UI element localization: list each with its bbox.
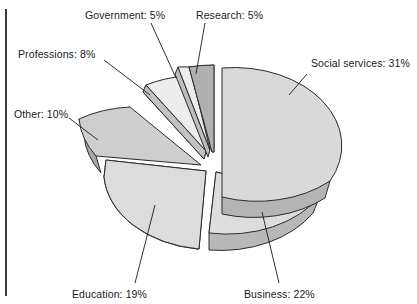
- exploded-pie-chart: [0, 0, 417, 304]
- label-research-category: Research:: [196, 9, 245, 21]
- label-business-value: 22%: [293, 288, 314, 300]
- label-professions-category: Professions:: [18, 48, 77, 60]
- leader-line-professions: [104, 60, 150, 95]
- label-social-services: Social services:31%: [311, 57, 410, 69]
- label-social-services-value: 31%: [389, 57, 410, 69]
- label-government-value: 5%: [150, 9, 165, 21]
- leader-line-government: [151, 23, 176, 78]
- label-education-value: 19%: [126, 288, 147, 300]
- label-education: Education:19%: [72, 288, 147, 300]
- label-social-services-category: Social services:: [311, 57, 386, 69]
- label-professions: Professions:8%: [18, 48, 95, 60]
- label-research: Research:5%: [196, 9, 263, 21]
- pie-chart-figure: Government:5% Research:5% Professions:8%…: [0, 0, 417, 304]
- label-other-value: 10%: [47, 108, 68, 120]
- label-government-category: Government:: [85, 9, 147, 21]
- label-other: Other:10%: [14, 108, 68, 120]
- label-professions-value: 8%: [80, 48, 95, 60]
- pie-slice-education[interactable]: [104, 160, 206, 249]
- label-education-category: Education:: [72, 288, 123, 300]
- label-government: Government:5%: [85, 9, 165, 21]
- label-business-category: Business:: [244, 288, 290, 300]
- label-other-category: Other:: [14, 108, 44, 120]
- label-business: Business:22%: [244, 288, 315, 300]
- label-research-value: 5%: [248, 9, 263, 21]
- pie-slice-social-services[interactable]: [222, 68, 342, 218]
